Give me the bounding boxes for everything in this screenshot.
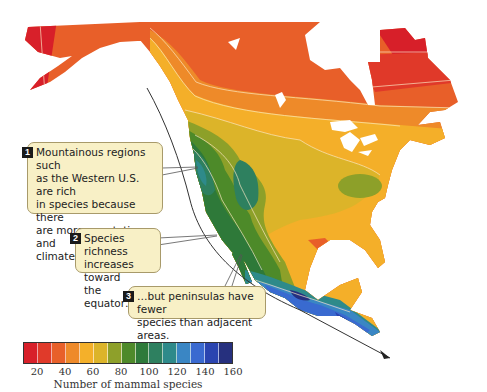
legend-swatch xyxy=(219,343,232,363)
color-legend: 20406080100120140160 Number of mammal sp… xyxy=(23,342,233,379)
legend-tick-label: 20 xyxy=(31,366,44,377)
callout-2-line-2: increases toward xyxy=(84,258,154,284)
legend-title: Number of mammal species xyxy=(23,378,233,390)
callout-1-line-3: in species because there xyxy=(36,198,156,224)
legend-swatch xyxy=(52,343,66,363)
arrow-head-icon xyxy=(380,350,390,359)
callout-3-line-2: species than adjacent areas. xyxy=(137,316,259,342)
callout-1-line-2: as the Western U.S. are rich xyxy=(36,172,156,198)
callout-2-line-1: Species richness xyxy=(84,232,154,258)
legend-tick-label: 60 xyxy=(87,366,100,377)
legend-tick-label: 80 xyxy=(115,366,128,377)
callout-number-2: 2 xyxy=(70,233,81,244)
legend-tick-label: 40 xyxy=(59,366,72,377)
legend-tick-label: 160 xyxy=(223,366,242,377)
legend-swatch xyxy=(24,343,38,363)
legend-swatch xyxy=(205,343,219,363)
callout-number-3: 3 xyxy=(123,291,134,302)
legend-tick-label: 120 xyxy=(167,366,186,377)
legend-swatch xyxy=(66,343,80,363)
legend-swatch xyxy=(163,343,177,363)
legend-swatch xyxy=(38,343,52,363)
legend-tick-label: 140 xyxy=(195,366,214,377)
legend-swatch xyxy=(108,343,122,363)
legend-swatch xyxy=(149,343,163,363)
callout-3-line-1: …but peninsulas have fewer xyxy=(137,290,259,316)
legend-color-scale xyxy=(23,342,233,364)
legend-tick-label: 100 xyxy=(139,366,158,377)
legend-swatch xyxy=(136,343,150,363)
callout-mountainous-regions: 1 Mountainous regions such as the Wester… xyxy=(27,142,163,214)
legend-swatch xyxy=(80,343,94,363)
legend-swatch xyxy=(177,343,191,363)
legend-swatch xyxy=(122,343,136,363)
callout-peninsulas: 3 …but peninsulas have fewer species tha… xyxy=(128,286,266,319)
legend-swatch xyxy=(191,343,205,363)
callout-1-line-1: Mountainous regions such xyxy=(36,146,156,172)
callout-equator-richness: 2 Species richness increases toward the … xyxy=(75,228,161,273)
legend-swatch xyxy=(94,343,108,363)
callout-number-1: 1 xyxy=(22,147,33,158)
